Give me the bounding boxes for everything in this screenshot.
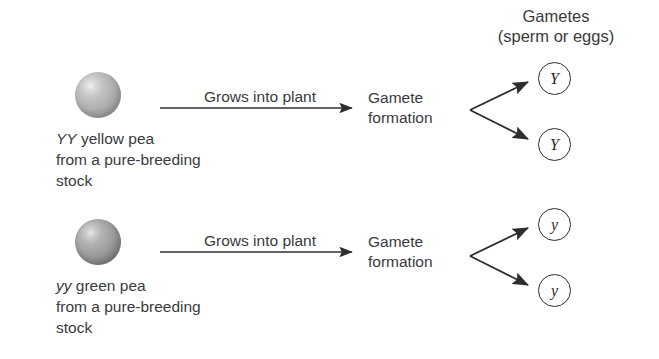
yellow-pea-genotype: YY xyxy=(56,130,77,147)
grows-into-plant-label-row1: Grows into plant xyxy=(160,88,360,106)
gamete-formation-row2-line1: Gamete xyxy=(368,232,433,252)
green-pea-caption-line1: yy green pea xyxy=(56,275,201,296)
green-pea-genotype: yy xyxy=(56,277,72,294)
gamete-circle-y-1: y xyxy=(538,208,571,241)
gamete-branch-arrows-row2 xyxy=(470,228,528,285)
gamete-formation-label-row1: Gamete formation xyxy=(368,88,433,128)
yellow-pea-caption-line3: stock xyxy=(56,170,201,191)
green-pea-caption-line1-rest: green pea xyxy=(72,277,146,294)
gamete-formation-label-row2: Gamete formation xyxy=(368,232,433,272)
gamete-circle-Y-2: Y xyxy=(538,128,571,161)
gamete-circle-Y-1: Y xyxy=(538,62,571,95)
gamete-formation-row2-line2: formation xyxy=(368,252,433,272)
green-pea-caption-line2: from a pure-breeding xyxy=(56,296,201,317)
gamete-formation-row1-line2: formation xyxy=(368,108,433,128)
grows-into-plant-label-row2: Grows into plant xyxy=(160,232,360,250)
gametes-header-line2: (sperm or eggs) xyxy=(476,26,636,46)
yellow-pea-caption-line2: from a pure-breeding xyxy=(56,149,201,170)
gametes-header: Gametes (sperm or eggs) xyxy=(476,6,636,46)
green-pea-caption-line3: stock xyxy=(56,317,201,338)
green-pea-caption: yy green pea from a pure-breeding stock xyxy=(56,275,201,338)
gamete-circle-y-2: y xyxy=(538,274,571,307)
yellow-pea-caption-line1: YY yellow pea xyxy=(56,128,201,149)
gamete-formation-diagram: Gametes (sperm or eggs) YY yellow pea fr… xyxy=(0,0,659,359)
green-pea-sphere xyxy=(75,219,121,265)
gamete-formation-row1-line1: Gamete xyxy=(368,88,433,108)
yellow-pea-caption: YY yellow pea from a pure-breeding stock xyxy=(56,128,201,191)
gamete-branch-arrows-row1 xyxy=(470,82,528,139)
yellow-pea-caption-line1-rest: yellow pea xyxy=(77,130,155,147)
yellow-pea-sphere xyxy=(75,72,121,118)
gametes-header-line1: Gametes xyxy=(476,6,636,26)
